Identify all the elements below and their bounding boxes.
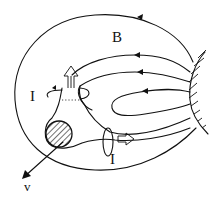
flow-arrow-right [118, 133, 134, 145]
field-line-3 [78, 69, 190, 134]
label-current-upper: I [30, 88, 35, 104]
label-field-b: B [112, 29, 122, 45]
diagram-canvas: B I I v [0, 0, 220, 198]
label-current-lower: I [110, 151, 115, 167]
arrow-head-icon [134, 52, 140, 58]
hatched-wall [189, 50, 208, 134]
label-velocity: v [24, 179, 31, 194]
hatched-body [46, 121, 72, 147]
arrow-head-icon [142, 88, 148, 94]
field-line-outer [15, 14, 196, 170]
field-line-inner-loop [112, 88, 190, 116]
flow-arrow-up [64, 66, 78, 88]
arrow-head-icon [137, 69, 143, 75]
arrow-head-icon [52, 85, 56, 90]
velocity-vector [22, 142, 63, 179]
